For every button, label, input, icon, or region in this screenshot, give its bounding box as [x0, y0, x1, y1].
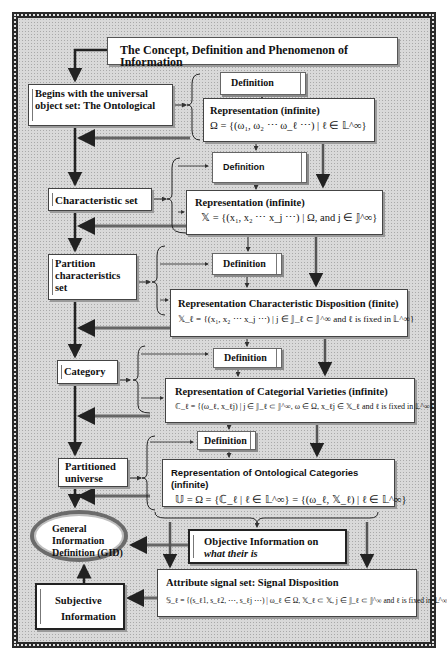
- representation-box-5: Representation of Ontological Categories…: [162, 459, 395, 507]
- partitioned-line-2: universe: [65, 473, 121, 485]
- definition-box-5: Definition: [197, 431, 256, 450]
- definition-box-3: Definition: [212, 253, 282, 275]
- subjective-information-box: Subjective Information: [35, 583, 125, 630]
- gid-line-3: Definition (GID): [52, 547, 124, 559]
- representation-formula: 𝕌 = Ω = {ℂ_ℓ | ℓ ∈ 𝕃^∞} = {(ω_ℓ, 𝕏_ℓ) | …: [171, 494, 386, 506]
- gid-ellipse: General Information Definition (GID): [30, 510, 128, 562]
- attribute-formula: 𝕊_ℓ = {(s_ℓ1, s_ℓ2, ⋯, s_ℓj ⋯) | ω_ℓ ∈ Ω…: [166, 595, 408, 607]
- objective-information-box: Objective Information on what their is: [188, 529, 347, 564]
- begins-line-1: Begins with the universal: [35, 88, 166, 100]
- definition-label: Definition: [223, 258, 266, 269]
- representation-heading: Representation (infinite): [210, 105, 368, 117]
- representation-formula: 𝕏_ℓ = {(x₁, x₂ ⋯ x_j ⋯) | j ∈ 𝕁_ℓ ⊂ 𝕁^∞ …: [178, 313, 400, 325]
- representation-formula: 𝕏 = {(x₁, x₂ ⋯ x_j ⋯) | Ω, and j ∈ 𝕁^∞}: [195, 212, 374, 224]
- representation-formula: Ω = {(ω₁, ω₂ ⋯ ω_ℓ ⋯) | ℓ ∈ 𝕃^∞}: [210, 120, 368, 132]
- representation-box-3: Representation Characteristic Dispositio…: [170, 289, 408, 337]
- definition-box-1: Definition: [220, 72, 306, 95]
- partition-line-2: characteristics: [55, 270, 130, 282]
- representation-box-4: Representation of Categorial Varieties (…: [165, 378, 415, 423]
- gid-line-1: General: [52, 523, 124, 535]
- partition-line-3: set: [55, 282, 130, 294]
- objective-prefix: Objective Information on: [204, 536, 318, 547]
- definition-label: Definition: [231, 77, 274, 88]
- representation-formula: ℂ_ℓ = {(ω_ℓ, x_ℓj) | j ∈ 𝕁_ℓ ⊂ 𝕁^∞, ω ∈ …: [175, 401, 405, 413]
- begins-box: Begins with the universal object set: Th…: [28, 84, 173, 126]
- gid-line-2: Information: [52, 535, 124, 547]
- representation-box-1: Representation (infinite) Ω = {(ω₁, ω₂ ⋯…: [203, 98, 375, 142]
- representation-box-2: Representation (infinite) 𝕏 = {(x₁, x₂ ⋯…: [186, 190, 383, 235]
- subjective-line-2: Information: [55, 609, 123, 625]
- definition-label: Definition: [223, 162, 265, 172]
- category-box: Category: [57, 360, 118, 384]
- category-label: Category: [64, 366, 105, 377]
- attribute-signal-box: Attribute signal set: Signal Disposition…: [157, 569, 417, 617]
- characteristic-set-label: Characteristic set: [55, 194, 138, 206]
- objective-italic: what their is: [204, 548, 258, 559]
- definition-box-4: Definition: [213, 348, 282, 368]
- partition-line-1: Partition: [55, 258, 130, 270]
- partitioned-universe-box: Partitioned universe: [58, 458, 128, 487]
- partition-box: Partition characteristics set: [48, 254, 137, 300]
- representation-heading: Representation Characteristic Dispositio…: [178, 298, 400, 310]
- representation-heading: Representation of Categorial Varieties (…: [175, 386, 405, 398]
- definition-label: Definition: [204, 435, 247, 446]
- diagram-title: The Concept, Definition and Phenomenon o…: [107, 37, 398, 65]
- characteristic-set-box: Characteristic set: [48, 188, 152, 211]
- partitioned-line-1: Partitioned: [65, 461, 121, 473]
- definition-label: Definition: [224, 352, 267, 363]
- representation-heading: Representation (infinite): [195, 197, 374, 209]
- attribute-heading: Attribute signal set: Signal Disposition: [166, 577, 408, 589]
- subjective-line-1: Subjective: [55, 593, 123, 609]
- begins-line-2: object set: The Ontological: [35, 100, 166, 112]
- definition-box-2: Definition: [212, 152, 307, 183]
- representation-heading: Representation of Ontological Categories…: [171, 467, 386, 491]
